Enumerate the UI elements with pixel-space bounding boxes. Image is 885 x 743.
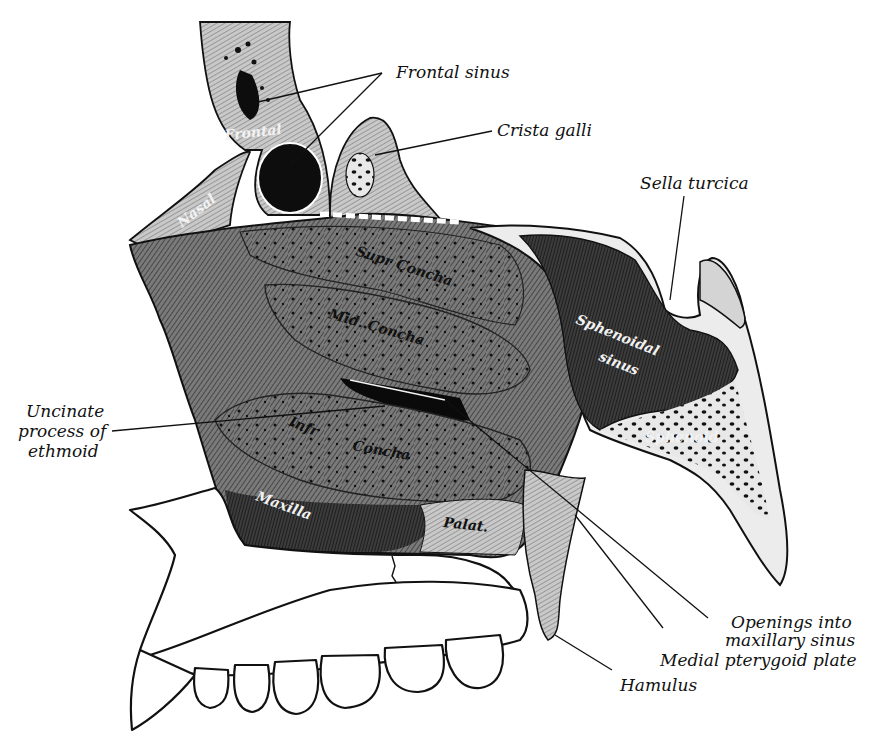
medial-pterygoid-plate — [523, 470, 585, 640]
tooth — [273, 660, 318, 714]
tooth — [234, 665, 269, 712]
label-medial-pterygoid-plate: Medial pterygoid plate — [659, 650, 856, 670]
anatomy-figure: Frontal Nasal Supr Concha Mid. Concha In… — [0, 0, 885, 743]
crista-galli — [330, 118, 445, 225]
label-uncinate-1: Uncinate — [26, 401, 104, 421]
tooth — [385, 645, 444, 692]
label-openings-2: maxillary sinus — [725, 630, 855, 650]
tooth — [446, 635, 503, 688]
nasal-cavity-illustration: Frontal Nasal Supr Concha Mid. Concha In… — [0, 0, 885, 743]
label-uncinate-3: ethmoid — [28, 441, 99, 461]
label-sella-turcica: Sella turcica — [640, 173, 749, 193]
tooth — [194, 668, 228, 708]
label-sphenoid: Sphenoid — [645, 429, 719, 445]
label-openings-1: Openings into — [731, 612, 852, 632]
label-frontal-sinus: Frontal sinus — [395, 62, 510, 82]
label-uncinate-2: process of — [18, 421, 109, 441]
label-crista-galli: Crista galli — [497, 120, 592, 140]
tooth — [321, 655, 380, 708]
frontal-sinus-lower — [258, 143, 322, 213]
label-hamulus: Hamulus — [619, 675, 697, 695]
